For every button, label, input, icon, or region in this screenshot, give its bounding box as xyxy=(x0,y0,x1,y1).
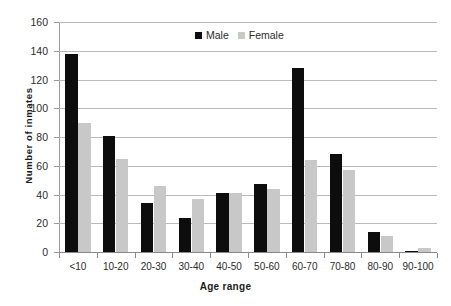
x-axis-tick-label: 20-30 xyxy=(135,261,173,272)
x-axis-tick-label: 60-70 xyxy=(286,261,324,272)
bar-female xyxy=(305,160,318,252)
x-axis-tick-label: 10-20 xyxy=(97,261,135,272)
bar-male xyxy=(141,203,154,252)
y-axis-tick-label: 40 xyxy=(12,190,48,200)
x-axis-tick-label: <10 xyxy=(59,261,97,272)
gridline xyxy=(59,51,437,52)
bar-male xyxy=(103,136,116,252)
y-axis-tick-label: 120 xyxy=(12,75,48,85)
y-axis-tick: 120 xyxy=(12,75,48,85)
bar-male xyxy=(179,218,192,253)
x-axis-tick-label: 90-100 xyxy=(399,261,437,272)
y-axis-tick-label: 80 xyxy=(12,132,48,142)
bar-female xyxy=(116,159,129,252)
y-axis-tick-label: 20 xyxy=(12,218,48,228)
x-axis-tick-mark xyxy=(399,253,400,258)
x-axis-tick-label: 30-40 xyxy=(172,261,210,272)
y-axis-tick: 80 xyxy=(12,132,48,142)
y-axis-tick: 160 xyxy=(12,17,48,27)
bar-chart: Number of inmates 020406080100120140160 … xyxy=(0,0,451,306)
bar-female xyxy=(229,193,242,252)
y-axis-tick-label: 60 xyxy=(12,161,48,171)
x-axis-tick-mark xyxy=(361,253,362,258)
legend-item-female: Female xyxy=(238,29,284,41)
gridline xyxy=(59,137,437,138)
x-axis-tick-mark xyxy=(135,253,136,258)
y-axis-tick: 0 xyxy=(12,247,48,257)
legend-label-female: Female xyxy=(249,29,284,41)
gridline xyxy=(59,108,437,109)
y-axis-tick: 40 xyxy=(12,190,48,200)
bar-male xyxy=(65,54,78,252)
y-axis-tick-label: 0 xyxy=(12,247,48,257)
x-axis-tick-mark xyxy=(172,253,173,258)
x-axis-title: Age range xyxy=(0,281,451,292)
x-axis-tick-label: 50-60 xyxy=(248,261,286,272)
bar-female xyxy=(343,170,356,252)
y-axis-tick-label: 100 xyxy=(12,103,48,113)
y-axis-tick: 140 xyxy=(12,46,48,56)
bar-female xyxy=(192,199,205,252)
bar-male xyxy=(368,232,381,252)
x-axis-tick-mark xyxy=(324,253,325,258)
x-axis-tick-label: 80-90 xyxy=(361,261,399,272)
bar-female xyxy=(267,189,280,252)
gridline xyxy=(59,22,437,23)
bar-female xyxy=(381,236,394,252)
legend: Male Female xyxy=(195,29,284,41)
y-axis-tick: 100 xyxy=(12,103,48,113)
gridline xyxy=(59,80,437,81)
bar-female xyxy=(78,123,91,252)
y-axis-tick-label: 140 xyxy=(12,46,48,56)
bar-female xyxy=(154,186,167,252)
x-axis-tick-mark xyxy=(437,253,438,258)
plot-area xyxy=(59,22,437,252)
x-axis-tick-label: 70-80 xyxy=(324,261,362,272)
y-axis-tick: 60 xyxy=(12,161,48,171)
x-axis-tick-mark xyxy=(248,253,249,258)
bar-male xyxy=(330,154,343,252)
y-axis-tick-label: 160 xyxy=(12,17,48,27)
x-axis-tick-label: 40-50 xyxy=(210,261,248,272)
x-axis-tick-mark xyxy=(59,253,60,258)
bar-male xyxy=(254,184,267,252)
bar-male xyxy=(292,68,305,252)
legend-swatch-female-icon xyxy=(238,32,245,39)
legend-label-male: Male xyxy=(206,29,229,41)
bar-male xyxy=(216,193,229,252)
x-axis-tick-mark xyxy=(97,253,98,258)
y-axis-tick: 20 xyxy=(12,218,48,228)
x-axis-tick-mark xyxy=(286,253,287,258)
x-axis-tick-mark xyxy=(210,253,211,258)
legend-swatch-male-icon xyxy=(195,32,202,39)
legend-item-male: Male xyxy=(195,29,229,41)
